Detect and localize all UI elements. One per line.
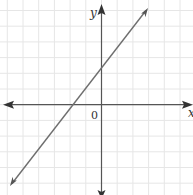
x-axis-label: x bbox=[188, 106, 193, 120]
y-axis-label: y bbox=[89, 6, 97, 20]
series-line bbox=[12, 11, 146, 184]
data-line bbox=[10, 8, 148, 186]
grid-lines bbox=[0, 0, 193, 195]
origin-label: 0 bbox=[91, 109, 98, 122]
coordinate-plane: y x 0 bbox=[0, 0, 193, 195]
